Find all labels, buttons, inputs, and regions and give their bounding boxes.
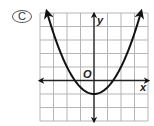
y-axis-label: y — [96, 14, 104, 26]
coordinate-graph: y x O — [0, 0, 154, 126]
x-axis-label: x — [139, 81, 147, 93]
origin-label: O — [83, 68, 92, 80]
